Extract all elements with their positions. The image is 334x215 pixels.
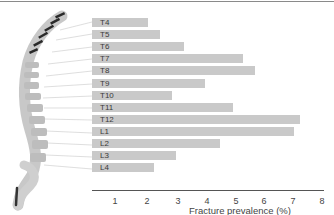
- bar-label: T5: [100, 29, 109, 40]
- bar-T7: T7: [92, 54, 243, 63]
- bar-label: T6: [100, 41, 109, 52]
- bar-T10: T10: [92, 91, 172, 100]
- bar-label: T11: [100, 102, 113, 113]
- bar-label: L3: [100, 150, 109, 161]
- bar-label: L1: [100, 126, 109, 137]
- bar-label: T12: [100, 114, 114, 125]
- bar-L1: L1: [92, 127, 294, 136]
- x-axis-title: Fracture prevalence (%): [170, 205, 310, 215]
- x-tick-label: 2: [141, 196, 153, 206]
- bar-T12: T12: [92, 115, 300, 124]
- bar-label: T4: [100, 17, 109, 28]
- bar-label: T7: [100, 53, 109, 64]
- bar-label: L4: [100, 162, 109, 173]
- bar-T4: T4: [92, 18, 148, 27]
- bar-T8: T8: [92, 66, 255, 75]
- bar-L3: L3: [92, 151, 176, 160]
- bar-T5: T5: [92, 30, 160, 39]
- bar-label: T8: [100, 65, 109, 76]
- bar-T11: T11: [92, 103, 233, 112]
- bar-L2: L2: [92, 139, 220, 148]
- bar-label: L2: [100, 138, 109, 149]
- x-tick-label: 1: [109, 196, 121, 206]
- bar-label: T10: [100, 90, 114, 101]
- x-axis-line: [92, 190, 324, 191]
- spine-illustration-icon: [0, 0, 95, 215]
- bar-T9: T9: [92, 79, 205, 88]
- bar-T6: T6: [92, 42, 184, 51]
- bar-label: T9: [100, 78, 109, 89]
- bar-L4: L4: [92, 163, 154, 172]
- x-tick-label: 8: [316, 196, 328, 206]
